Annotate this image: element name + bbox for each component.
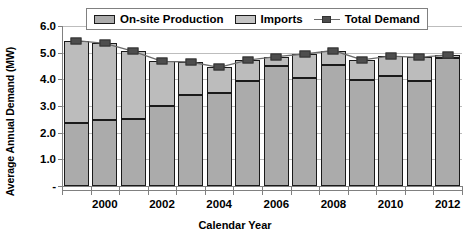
bar-segment-imports [92, 43, 117, 120]
total-demand-marker [442, 51, 453, 58]
legend-item-on-site-production: On-site Production [94, 13, 224, 25]
total-demand-line-marker-icon [314, 15, 340, 24]
total-demand-marker [299, 51, 310, 58]
chart-container: Average Annual Demand (MW) 6.05.04.03.02… [0, 0, 470, 243]
bar-segment-imports [121, 51, 146, 119]
bar-segment-on-site-production [435, 58, 460, 186]
y-axis-tick-mark [58, 26, 63, 27]
y-axis-tick-label: - [16, 180, 56, 192]
bar-segment-imports [149, 61, 174, 106]
bar-group [435, 26, 460, 186]
x-axis-tick-label: 2006 [263, 198, 289, 210]
x-axis-title: Calendar Year [0, 219, 470, 231]
total-demand-marker [185, 59, 196, 66]
x-axis-tick-mark [319, 186, 320, 195]
bar-segment-on-site-production [378, 76, 403, 186]
bar-group [64, 26, 89, 186]
legend-item-total-demand: Total Demand [314, 13, 420, 25]
total-demand-marker [414, 54, 425, 61]
bar-segment-on-site-production [321, 65, 346, 186]
x-axis-tick-mark [205, 186, 206, 195]
x-axis-tick-mark [433, 186, 434, 195]
bar-group [264, 26, 289, 186]
bar-segment-on-site-production [235, 81, 260, 186]
legend-item-imports: Imports [235, 13, 303, 25]
bar-segment-imports [407, 57, 432, 81]
bar-segment-on-site-production [92, 120, 117, 186]
x-axis-tick-mark [176, 186, 177, 195]
y-axis-tick-label: 6.0 [16, 20, 56, 32]
x-axis-tick-mark [462, 186, 463, 195]
x-axis-tick-mark [119, 186, 120, 195]
legend-label: On-site Production [120, 13, 224, 25]
on-site-production-swatch-icon [94, 15, 115, 24]
total-demand-marker [71, 37, 82, 44]
y-axis-tick-label: 2.0 [16, 127, 56, 139]
bar-group [149, 26, 174, 186]
bar-segment-on-site-production [292, 78, 317, 186]
bar-segment-imports [207, 67, 232, 92]
y-axis-tick-label: 4.0 [16, 73, 56, 85]
bar-group [207, 26, 232, 186]
x-axis-tick-mark [262, 186, 263, 195]
y-axis-tick-mark [58, 106, 63, 107]
x-axis-tick-label: 2000 [92, 198, 118, 210]
chart-legend: On-site Production Imports Total Demand [86, 8, 428, 30]
bar-segment-on-site-production [207, 93, 232, 186]
y-axis-tick-mark [58, 79, 63, 80]
x-axis-tick-mark [233, 186, 234, 195]
total-demand-marker [128, 48, 139, 55]
y-axis-tick-mark [58, 159, 63, 160]
bar-segment-on-site-production [149, 106, 174, 186]
square-marker-icon [322, 16, 331, 23]
bar-group [407, 26, 432, 186]
x-axis-tick-mark [405, 186, 406, 195]
bar-segment-on-site-production [349, 80, 374, 186]
x-axis-tick-label: 2008 [321, 198, 347, 210]
total-demand-marker [328, 47, 339, 54]
x-axis-tick-label: 2012 [435, 198, 461, 210]
x-axis-tick-label: 2002 [149, 198, 175, 210]
bar-segment-imports [292, 54, 317, 78]
x-axis-tick-mark [62, 186, 63, 195]
bar-segment-on-site-production [121, 119, 146, 186]
bar-group [178, 26, 203, 186]
bar-group [378, 26, 403, 186]
total-demand-marker [242, 57, 253, 64]
y-axis-tick-mark [58, 53, 63, 54]
total-demand-marker [385, 53, 396, 60]
x-axis-tick-mark [376, 186, 377, 195]
total-demand-marker [271, 53, 282, 60]
plot-area [62, 26, 462, 186]
bar-segment-on-site-production [407, 81, 432, 186]
legend-label: Imports [261, 13, 303, 25]
legend-label: Total Demand [345, 13, 420, 25]
x-axis-tick-mark [348, 186, 349, 195]
bar-segment-imports [178, 62, 203, 95]
total-demand-marker [357, 56, 368, 63]
bar-segment-on-site-production [178, 95, 203, 186]
bar-group [235, 26, 260, 186]
bar-group [349, 26, 374, 186]
y-axis-tick-label: 3.0 [16, 100, 56, 112]
x-axis-tick-label: 2010 [378, 198, 404, 210]
bar-segment-on-site-production [64, 123, 89, 186]
imports-swatch-icon [235, 15, 256, 24]
bar-segment-imports [64, 41, 89, 123]
total-demand-marker [157, 58, 168, 65]
y-axis-tick-labels: 6.05.04.03.02.01.0- [16, 0, 56, 243]
x-axis-tick-mark [148, 186, 149, 195]
total-demand-marker [99, 40, 110, 47]
y-axis-tick-mark [58, 133, 63, 134]
y-axis-tick-label: 1.0 [16, 153, 56, 165]
x-axis-tick-mark [91, 186, 92, 195]
bar-segment-on-site-production [264, 66, 289, 186]
total-demand-marker [214, 64, 225, 71]
x-axis-tick-mark [291, 186, 292, 195]
x-axis-tick-label: 2004 [206, 198, 232, 210]
bar-group [92, 26, 117, 186]
y-axis-tick-label: 5.0 [16, 47, 56, 59]
